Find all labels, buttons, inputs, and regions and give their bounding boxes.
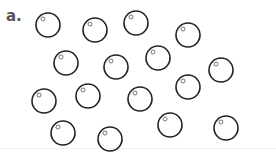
bubble-icon bbox=[51, 121, 75, 145]
bubble-icon bbox=[209, 58, 233, 82]
circles-diagram bbox=[0, 0, 276, 163]
bubble-icon bbox=[76, 84, 100, 108]
bubble-icon bbox=[176, 23, 200, 47]
bubble-icon bbox=[176, 75, 200, 99]
bubble-icon bbox=[124, 11, 148, 35]
bubble-icon bbox=[158, 113, 182, 137]
bubble-icon bbox=[54, 51, 78, 75]
bubble-icon bbox=[83, 18, 107, 42]
bubble-icon bbox=[146, 46, 170, 70]
bubble-icon bbox=[104, 55, 128, 79]
bubble-icon bbox=[214, 116, 238, 140]
bubble-icon bbox=[128, 87, 152, 111]
bubble-icon bbox=[98, 127, 122, 151]
bubble-icon bbox=[32, 89, 56, 113]
bubble-icon bbox=[36, 13, 60, 37]
